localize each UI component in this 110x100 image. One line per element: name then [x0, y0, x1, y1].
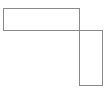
shape-layer	[0, 0, 110, 100]
diagram-canvas	[0, 0, 110, 100]
horizontal-rectangle	[4, 9, 80, 31]
vertical-rectangle	[80, 31, 103, 86]
